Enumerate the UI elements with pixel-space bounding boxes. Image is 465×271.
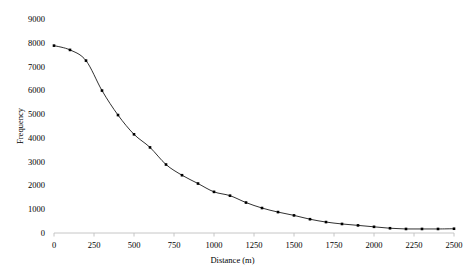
x-axis-title: Distance (m) [0,255,465,265]
data-point-marker: 200, 7250 [85,59,88,62]
data-point-marker: 1900, 320 [357,224,360,227]
y-axis-tick-label: 3000 [0,157,45,166]
axis-lines [54,233,454,237]
data-point-marker: 1400, 880 [277,211,280,214]
data-point-marker: 1800, 380 [341,223,344,226]
x-axis-tick-label: 1750 [326,241,343,250]
data-point-marker: 500, 4150 [133,133,136,136]
data-point-marker: 800, 2430 [181,174,184,177]
data-point-marker: 700, 2880 [165,163,168,166]
data-point-marker: 900, 2080 [197,182,200,185]
data-point-marker: 1000, 1730 [213,191,216,194]
data-point-marker: 400, 4960 [117,114,120,117]
y-axis-tick-label: 0 [0,229,45,238]
data-point-marker: 1100, 1570 [229,194,232,197]
data-point-marker: 1200, 1280 [245,201,248,204]
x-axis-tick-label: 2500 [446,241,463,250]
data-point-marker: 1300, 1050 [261,207,264,210]
data-point-marker: 300, 5990 [101,89,104,92]
y-axis-tick-label: 6000 [0,86,45,95]
y-axis-tick-label: 7000 [0,62,45,71]
x-axis-tick-label: 250 [88,241,101,250]
data-point-marker: 600, 3600 [149,146,152,149]
data-point-marker: 2000, 260 [373,226,376,229]
y-axis-tick-label: 2000 [0,181,45,190]
x-axis-tick-label: 1000 [206,241,223,250]
data-point-marker: 2200, 170 [405,228,408,231]
data-point-marker: 1700, 460 [325,221,328,224]
series-line-frequency [54,46,454,229]
data-point-marker: 2300, 170 [421,228,424,231]
chart-plot-area: 0, 7880100, 7700200, 7250300, 5990400, 4… [0,0,465,271]
chart-container: 0, 7880100, 7700200, 7250300, 5990400, 4… [0,0,465,271]
y-axis-tick-label: 9000 [0,15,45,24]
data-series-frequency [54,46,454,229]
data-point-marker: 2400, 170 [437,228,440,231]
y-axis-tick-label: 8000 [0,39,45,48]
y-axis-title: Frequency [15,108,25,144]
data-point-marker: 0, 7880 [53,44,56,47]
x-axis-tick-label: 500 [128,241,141,250]
x-axis-tick-label: 2250 [406,241,423,250]
data-point-marker: 100, 7700 [69,49,72,52]
x-axis-tick-label: 1500 [286,241,303,250]
x-axis-tick-label: 0 [52,241,56,250]
data-point-marker: 2100, 200 [389,227,392,230]
data-point-marker: 2500, 180 [453,227,456,230]
data-point-markers: 0, 7880100, 7700200, 7250300, 5990400, 4… [53,44,456,230]
x-axis-tick-label: 2000 [366,241,383,250]
x-axis-tick-label: 1250 [246,241,263,250]
data-point-marker: 1600, 580 [309,218,312,221]
x-axis-tick-label: 750 [168,241,181,250]
data-point-marker: 1500, 740 [293,214,296,217]
y-axis-tick-label: 1000 [0,205,45,214]
